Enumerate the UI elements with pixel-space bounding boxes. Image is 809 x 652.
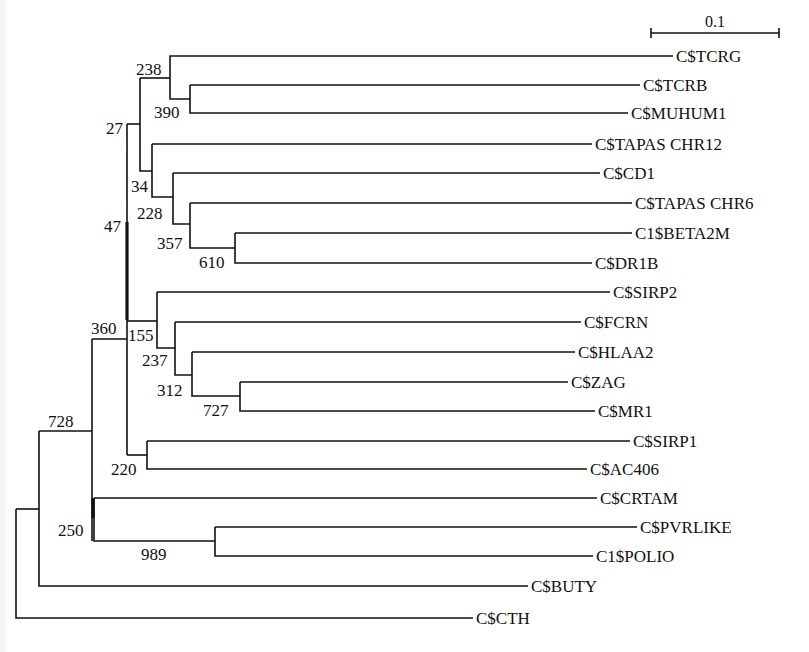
bootstrap-value: 728 <box>48 412 74 431</box>
leaf-label: C$SIRP1 <box>633 432 697 451</box>
leaf-label: C1$POLIO <box>596 547 674 566</box>
bootstrap-value: 727 <box>203 401 229 420</box>
leaf-labels: C$TCRG C$TCRB C$MUHUM1 C$TAPAS CHR12 C$C… <box>476 47 753 628</box>
bootstrap-value: 360 <box>91 319 117 338</box>
bootstrap-value: 238 <box>136 60 162 79</box>
leaf-label: C$ZAG <box>571 373 626 392</box>
leaf-label: C$TAPAS CHR12 <box>595 135 722 154</box>
bootstrap-value: 27 <box>106 119 124 138</box>
bootstrap-value: 610 <box>199 253 225 272</box>
scale-bar: 0.1 <box>651 13 779 38</box>
leaf-label: C$CRTAM <box>600 489 678 508</box>
bootstrap-value: 390 <box>154 103 180 122</box>
bootstrap-value: 220 <box>111 460 137 479</box>
leaf-label: C1$BETA2M <box>635 224 730 243</box>
scale-bar-label: 0.1 <box>705 13 725 30</box>
bootstrap-value: 155 <box>128 326 154 345</box>
bootstrap-value: 357 <box>157 234 183 253</box>
phylogenetic-tree: 0.1 <box>0 0 809 652</box>
leaf-label: C$TAPAS CHR6 <box>635 194 753 213</box>
bootstrap-value: 34 <box>131 177 149 196</box>
leaf-label: C$MUHUM1 <box>631 104 726 123</box>
leaf-label: C$TCRB <box>643 76 707 95</box>
bootstrap-value: 237 <box>142 351 168 370</box>
leaf-label: C$AC406 <box>590 460 659 479</box>
leaf-label: C$TCRG <box>676 47 741 66</box>
leaf-label: C$CTH <box>476 609 530 628</box>
leaf-label: C$CD1 <box>603 164 655 183</box>
bootstrap-value: 47 <box>104 217 122 236</box>
bootstrap-value: 312 <box>157 381 183 400</box>
bootstrap-value: 989 <box>141 545 167 564</box>
leaf-label: C$MR1 <box>598 402 653 421</box>
leaf-label: C$SIRP2 <box>613 283 677 302</box>
leaf-label: C$DR1B <box>595 254 658 273</box>
bootstrap-labels: 238 390 27 34 228 47 357 610 360 155 237… <box>48 60 229 564</box>
leaf-label: C$BUTY <box>531 577 597 596</box>
leaf-label: C$PVRLIKE <box>640 518 732 537</box>
bootstrap-value: 228 <box>137 204 163 223</box>
leaf-label: C$HLAA2 <box>578 343 654 362</box>
leaf-label: C$FCRN <box>584 313 648 332</box>
bootstrap-value: 250 <box>58 521 84 540</box>
